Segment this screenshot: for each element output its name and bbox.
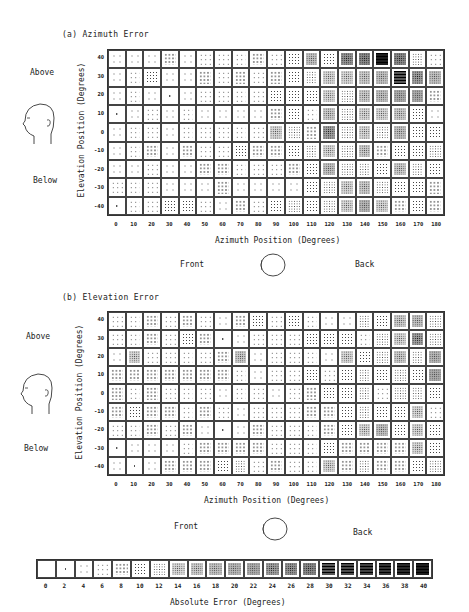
heatmap-cell [338, 160, 356, 178]
x-tick-label: 170 [409, 481, 427, 487]
heatmap-cell [267, 160, 285, 178]
heatmap-cell [356, 105, 374, 123]
heatmap-cell [373, 197, 391, 215]
heatmap-cell [285, 105, 303, 123]
heatmap-cell [285, 160, 303, 178]
heatmap-cell [267, 348, 285, 366]
heatmap-cell [426, 384, 444, 402]
heatmap-cell [373, 50, 391, 68]
legend-tick-label: 18 [206, 582, 225, 589]
heatmap-cell [214, 50, 232, 68]
heatmap-cell [179, 87, 197, 105]
heatmap-cell [338, 142, 356, 160]
x-tick-label: 50 [196, 221, 214, 227]
heatmap-cell [373, 87, 391, 105]
x-tick-label: 170 [409, 221, 427, 227]
heatmap-cell [232, 457, 250, 475]
heatmap-cell [409, 50, 427, 68]
heatmap-cell [214, 384, 232, 402]
heatmap-cell [126, 312, 144, 330]
heatmap-cell [320, 403, 338, 421]
heatmap-cell [179, 330, 197, 348]
heatmap-cell [409, 123, 427, 141]
heatmap-cell [409, 160, 427, 178]
heatmap-cell [232, 366, 250, 384]
heatmap-cell [214, 348, 232, 366]
heatmap-cell [391, 421, 409, 439]
x-tick-label: 180 [427, 221, 445, 227]
heatmap-cell [356, 330, 374, 348]
heatmap-cell [232, 439, 250, 457]
heatmap-cell [338, 312, 356, 330]
heatmap-cell [426, 439, 444, 457]
heatmap-cell [356, 123, 374, 141]
heatmap-cell [143, 384, 161, 402]
heatmap-cell [391, 178, 409, 196]
heatmap-cell [196, 105, 214, 123]
panel-b-above-label: Above [26, 332, 50, 341]
heatmap-cell [373, 312, 391, 330]
heatmap-cell [108, 366, 126, 384]
x-tick-label: 140 [356, 481, 374, 487]
heatmap-cell [303, 439, 321, 457]
heatmap-cell [373, 142, 391, 160]
heatmap-cell [285, 403, 303, 421]
legend-tick-label: 36 [376, 582, 395, 589]
heatmap-cell [214, 68, 232, 86]
heatmap-cell [196, 439, 214, 457]
heatmap-cell [126, 50, 144, 68]
heatmap-cell [391, 142, 409, 160]
x-tick-label: 80 [249, 481, 267, 487]
heatmap-cell [356, 87, 374, 105]
heatmap-cell [196, 160, 214, 178]
heatmap-cell [409, 457, 427, 475]
heatmap-cell [161, 457, 179, 475]
panel-a-yticks: 403020100-10-20-30-40 [90, 49, 104, 216]
panel-a-xlabel: Azimuth Position (Degrees) [215, 236, 340, 245]
heatmap-cell [161, 403, 179, 421]
legend-swatch [169, 560, 188, 578]
heatmap-cell [126, 403, 144, 421]
heatmap-cell [338, 384, 356, 402]
heatmap-cell [143, 160, 161, 178]
heatmap-cell [267, 384, 285, 402]
heatmap-cell [161, 366, 179, 384]
heatmap-cell [303, 366, 321, 384]
legend-tick-label: 28 [301, 582, 320, 589]
heatmap-cell [249, 457, 267, 475]
heatmap-cell [356, 312, 374, 330]
panel-b-xlabel: Azimuth Position (Degrees) [204, 496, 329, 505]
heatmap-cell [303, 421, 321, 439]
heatmap-cell [214, 421, 232, 439]
heatmap-cell [196, 384, 214, 402]
panel-b-xticks: 0102030405060708090100110120130140150160… [107, 481, 445, 489]
heatmap-cell [214, 403, 232, 421]
x-tick-label: 70 [232, 481, 250, 487]
heatmap-cell [391, 330, 409, 348]
panel-b-title: (b) Elevation Error [62, 293, 159, 302]
heatmap-cell [143, 178, 161, 196]
panel-a-heatmap [107, 49, 445, 216]
heatmap-cell [161, 197, 179, 215]
heatmap-cell [338, 366, 356, 384]
y-tick-label: 40 [90, 54, 104, 60]
heatmap-cell [356, 366, 374, 384]
heatmap-cell [232, 348, 250, 366]
heatmap-cell [338, 87, 356, 105]
heatmap-cell [285, 348, 303, 366]
heatmap-cell [285, 178, 303, 196]
legend-swatch [75, 560, 94, 578]
heatmap-cell [320, 384, 338, 402]
heatmap-cell [249, 197, 267, 215]
heatmap-cell [143, 330, 161, 348]
heatmap-cell [179, 68, 197, 86]
heatmap-cell [303, 312, 321, 330]
x-tick-label: 140 [356, 221, 374, 227]
heatmap-cell [320, 105, 338, 123]
x-tick-label: 100 [285, 481, 303, 487]
heatmap-cell [356, 197, 374, 215]
heatmap-cell [126, 457, 144, 475]
heatmap-cell [232, 197, 250, 215]
heatmap-cell [232, 68, 250, 86]
legend-swatch [37, 560, 56, 578]
